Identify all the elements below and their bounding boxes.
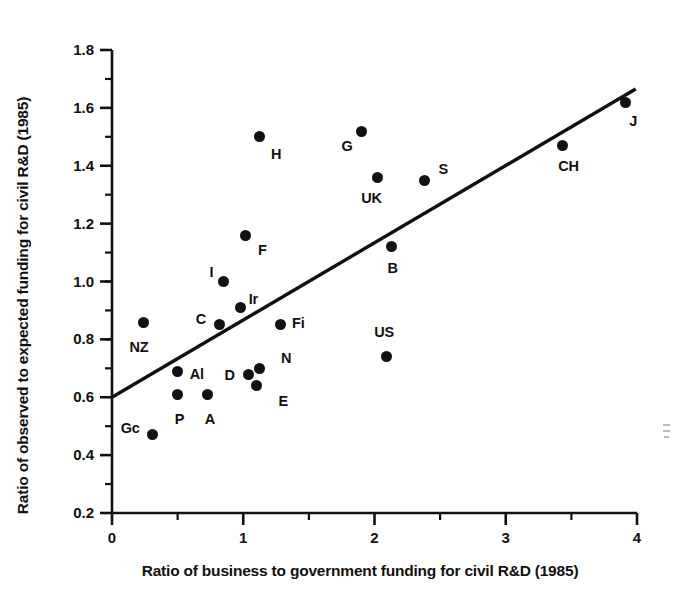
- y-axis-tick-label: 1.4: [0, 157, 94, 174]
- y-axis-tick-label: 0.6: [0, 388, 94, 405]
- data-point-n[interactable]: [254, 363, 265, 374]
- data-point-label-h: H: [271, 146, 281, 162]
- data-point-p[interactable]: [172, 389, 183, 400]
- data-point-g[interactable]: [356, 126, 367, 137]
- data-point-label-gc: Gc: [121, 420, 140, 436]
- data-point-label-a: A: [205, 411, 215, 427]
- x-axis-tick-label: 4: [622, 529, 652, 546]
- y-axis-tick-label: 0.2: [0, 504, 94, 521]
- x-axis-tick-label: 2: [360, 529, 390, 546]
- data-point-e[interactable]: [251, 380, 262, 391]
- data-point-h[interactable]: [254, 131, 265, 142]
- plot-canvas: [0, 0, 675, 611]
- scan-speck: [663, 430, 670, 432]
- data-point-label-ir: Ir: [249, 291, 258, 307]
- x-axis-tick-label: 0: [97, 529, 127, 546]
- data-point-fi[interactable]: [275, 319, 286, 330]
- data-point-label-ch: CH: [558, 158, 579, 174]
- y-axis-tick-label: 1.0: [0, 273, 94, 290]
- y-axis-tick-label: 1.6: [0, 99, 94, 116]
- data-point-uk[interactable]: [372, 172, 383, 183]
- data-point-label-d: D: [225, 367, 235, 383]
- y-axis-tick-label: 1.8: [0, 41, 94, 58]
- plot-area: 0.20.40.60.81.01.21.41.61.801234NZGcPAlA…: [0, 0, 675, 611]
- data-point-d[interactable]: [243, 369, 254, 380]
- data-point-label-s: S: [438, 161, 447, 177]
- data-point-j[interactable]: [620, 97, 631, 108]
- data-point-label-us: US: [374, 324, 394, 340]
- data-point-label-i: I: [210, 264, 214, 280]
- data-point-label-e: E: [278, 393, 287, 409]
- y-axis-tick-label: 1.2: [0, 215, 94, 232]
- data-point-label-nz: NZ: [130, 339, 149, 355]
- data-point-label-al: Al: [190, 366, 204, 382]
- y-axis-tick-label: 0.4: [0, 446, 94, 463]
- regression-line: [112, 89, 636, 397]
- data-point-label-f: F: [258, 242, 267, 258]
- x-axis-tick-label: 1: [228, 529, 258, 546]
- data-point-ch[interactable]: [557, 140, 568, 151]
- y-axis-tick-label: 0.8: [0, 330, 94, 347]
- scatter-plot-figure: Ratio of observed to expected funding fo…: [0, 0, 675, 611]
- data-point-label-b: B: [388, 260, 398, 276]
- data-point-label-c: C: [196, 311, 206, 327]
- data-point-label-fi: Fi: [292, 315, 305, 331]
- data-point-al[interactable]: [172, 366, 183, 377]
- data-point-i[interactable]: [218, 276, 229, 287]
- data-point-label-p: P: [175, 411, 184, 427]
- data-point-s[interactable]: [419, 175, 430, 186]
- data-point-label-n: N: [281, 350, 291, 366]
- scan-speck: [664, 436, 669, 438]
- data-point-label-g: G: [341, 138, 352, 154]
- data-point-nz[interactable]: [138, 317, 149, 328]
- x-axis-tick-label: 3: [491, 529, 521, 546]
- data-point-label-uk: UK: [361, 190, 382, 206]
- data-point-us[interactable]: [381, 351, 392, 362]
- scan-speck: [663, 424, 670, 426]
- data-point-label-j: J: [629, 113, 637, 129]
